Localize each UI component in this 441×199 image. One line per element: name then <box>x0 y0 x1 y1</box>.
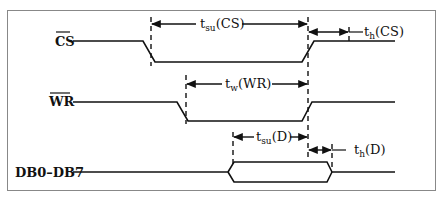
svg-text:th(D): th(D) <box>354 142 386 159</box>
signal-label-wr: WR <box>48 93 75 109</box>
db-waveform <box>73 162 395 182</box>
signal-label-cs: CS <box>55 32 75 49</box>
svg-text:tw(WR): tw(WR) <box>225 76 271 93</box>
timing-th-d: th(D) <box>309 142 386 159</box>
timing-tsu-cs: tsu(CS) <box>152 16 307 33</box>
svg-text:th(CS): th(CS) <box>364 24 404 41</box>
svg-text:tsu(CS): tsu(CS) <box>200 16 245 33</box>
svg-text:tsu(D): tsu(D) <box>256 129 292 146</box>
timing-tsu-d: tsu(D) <box>234 129 307 146</box>
reference-lines <box>151 17 349 168</box>
timing-tw-wr: tw(WR) <box>187 76 307 93</box>
wr-waveform <box>73 102 395 121</box>
cs-waveform <box>73 41 395 62</box>
timing-diagram: CS WR DB0–DB7 tsu(CS) th(CS) <box>0 0 441 199</box>
svg-text:CS: CS <box>55 34 75 49</box>
svg-text:WR: WR <box>48 94 75 109</box>
timing-th-cs: th(CS) <box>309 24 404 41</box>
